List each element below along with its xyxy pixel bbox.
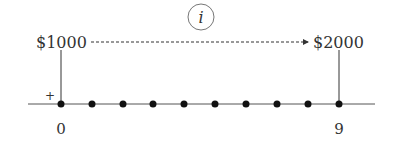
period-label-end: 9 bbox=[334, 120, 344, 138]
rate-label: i bbox=[198, 8, 203, 27]
period-dot-4 bbox=[181, 101, 188, 108]
period-dot-5 bbox=[212, 101, 219, 108]
interest-rate-symbol: i bbox=[188, 4, 214, 30]
cash-flow-diagram: i $1000 $2000 + 0 9 bbox=[0, 0, 397, 144]
period-dot-2 bbox=[120, 101, 127, 108]
present-value-label: $1000 bbox=[36, 33, 87, 52]
period-dot-6 bbox=[243, 101, 250, 108]
period-dot-9 bbox=[336, 101, 343, 108]
sign-marker: + bbox=[45, 89, 55, 103]
period-dot-0 bbox=[58, 101, 65, 108]
period-dot-3 bbox=[150, 101, 157, 108]
future-value-label: $2000 bbox=[313, 33, 364, 52]
period-label-start: 0 bbox=[56, 120, 66, 138]
period-dot-7 bbox=[274, 101, 281, 108]
period-dot-8 bbox=[305, 101, 312, 108]
period-dot-1 bbox=[89, 101, 96, 108]
